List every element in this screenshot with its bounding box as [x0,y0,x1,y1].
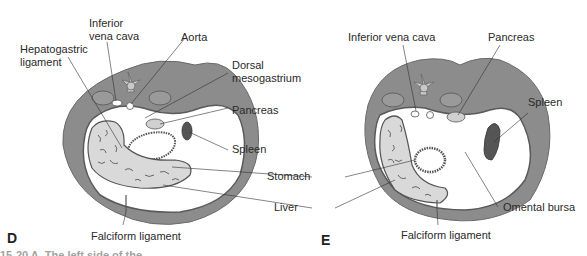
panel-letter-e: E [321,232,330,248]
label-d-hepatogastric-ligament: Hepatogastric ligament [20,43,88,69]
label-d-aorta: Aorta [181,31,207,44]
label-e-falciform-ligament: Falciform ligament [401,229,491,242]
label-liver: Liver [274,201,298,214]
label-stomach: Stomach [267,170,310,183]
label-d-pancreas: Pancreas [232,104,278,117]
embryology-figure: Inferior vena cava Aorta Hepatogastric l… [0,0,587,256]
label-e-inferior-vena-cava: Inferior vena cava [348,31,435,44]
label-d-spleen: Spleen [232,143,266,156]
label-d-inferior-vena-cava: Inferior vena cava [89,17,139,43]
figure-caption-clipped: 15-20 A. The left side of the ... [0,249,300,256]
label-e-spleen: Spleen [528,96,562,109]
label-e-omental-bursa: Omental bursa [503,201,575,214]
label-e-pancreas: Pancreas [488,31,534,44]
label-d-falciform-ligament: Falciform ligament [91,230,181,243]
panel-letter-d: D [7,230,17,246]
label-d-dorsal-mesogastrium: Dorsal mesogastrium [232,59,301,85]
panel-e-drawing [335,45,550,225]
